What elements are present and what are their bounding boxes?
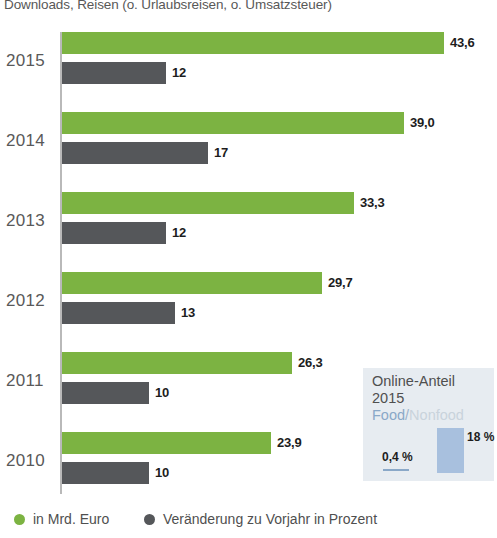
chart-container: Downloads, Reisen (o. Urlaubsreisen, o. … xyxy=(0,0,497,538)
inset-bar-nonfood xyxy=(437,428,464,473)
inset-category-labels: Food/Nonfood xyxy=(372,407,464,423)
bar-group-2012: 2012 29,7 13 xyxy=(0,264,497,344)
value-label-2013: 33,3 xyxy=(360,195,385,210)
change-bar-2013 xyxy=(62,222,166,244)
category-label-2013: 2013 xyxy=(6,211,54,231)
category-label-2012: 2012 xyxy=(6,291,54,311)
change-label-2011: 10 xyxy=(155,385,169,400)
value-label-2014: 39,0 xyxy=(410,115,435,130)
inset-value-food: 0,4 % xyxy=(382,450,413,464)
change-label-2010: 10 xyxy=(155,465,169,480)
value-bar-2014 xyxy=(62,112,404,134)
legend-label-change: Veränderung zu Vorjahr in Prozent xyxy=(163,511,377,527)
legend-dot-icon-change xyxy=(144,514,155,525)
change-bar-2011 xyxy=(62,382,149,404)
value-bar-2011 xyxy=(62,352,292,374)
value-label-2012: 29,7 xyxy=(328,275,353,290)
inset-label-food: Food xyxy=(372,407,405,423)
chart-legend: in Mrd. Euro Veränderung zu Vorjahr in P… xyxy=(0,508,497,538)
value-bar-2013 xyxy=(62,192,354,214)
change-bar-2010 xyxy=(62,462,149,484)
inset-label-nonfood: Nonfood xyxy=(409,407,464,423)
change-bar-2012 xyxy=(62,302,175,324)
value-bar-2012 xyxy=(62,272,322,294)
bar-group-2013: 2013 33,3 12 xyxy=(0,184,497,264)
value-label-2010: 23,9 xyxy=(277,435,302,450)
inset-panel-online-share: Online-Anteil 2015 Food/Nonfood 18 % 0,4… xyxy=(363,368,494,481)
change-label-2012: 13 xyxy=(181,305,195,320)
inset-title-line1: Online-Anteil xyxy=(372,373,455,390)
inset-title-line2: 2015 xyxy=(372,390,404,406)
category-label-2014: 2014 xyxy=(6,131,54,151)
change-bar-2014 xyxy=(62,142,208,164)
chart-subtitle: Downloads, Reisen (o. Urlaubsreisen, o. … xyxy=(4,0,332,12)
change-label-2014: 17 xyxy=(214,145,228,160)
bar-group-2015: 2015 43,6 12 xyxy=(0,24,497,104)
value-label-2015: 43,6 xyxy=(450,35,475,50)
legend-label-value: in Mrd. Euro xyxy=(33,511,109,527)
bar-group-2014: 2014 39,0 17 xyxy=(0,104,497,184)
inset-value-nonfood: 18 % xyxy=(467,430,494,444)
change-label-2013: 12 xyxy=(172,225,186,240)
legend-item-value: in Mrd. Euro xyxy=(14,511,109,527)
inset-bar-food xyxy=(383,469,409,471)
change-label-2015: 12 xyxy=(172,65,186,80)
change-bar-2015 xyxy=(62,62,166,84)
category-label-2010: 2010 xyxy=(6,451,54,471)
category-label-2015: 2015 xyxy=(6,51,54,71)
legend-dot-icon-value xyxy=(14,514,25,525)
value-bar-2015 xyxy=(62,32,444,54)
legend-item-change: Veränderung zu Vorjahr in Prozent xyxy=(144,511,377,527)
value-bar-2010 xyxy=(62,432,271,454)
category-label-2011: 2011 xyxy=(6,371,54,391)
value-label-2011: 26,3 xyxy=(298,355,323,370)
